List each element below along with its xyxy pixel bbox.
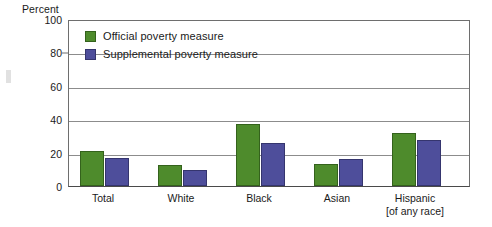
y-tick-80: 80: [26, 47, 62, 59]
bar-asian-official: [314, 164, 338, 186]
legend-label-official: Official poverty measure: [103, 30, 224, 42]
bar-hispanic-official: [392, 133, 416, 186]
gridline-40: [69, 121, 469, 122]
bar-total-supplemental: [105, 158, 129, 186]
y-tick-20: 20: [26, 148, 62, 160]
legend-swatch-supplemental-icon: [85, 49, 96, 60]
y-tick-40: 40: [26, 114, 62, 126]
chart-legend: Official poverty measure Supplemental po…: [85, 28, 258, 64]
bar-white-official: [158, 165, 182, 186]
bar-total-official: [80, 151, 104, 186]
bar-asian-supplemental: [339, 159, 363, 186]
bar-black-official: [236, 124, 260, 186]
y-tick-100: 100: [26, 14, 62, 26]
x-label-asian: Asian: [324, 192, 350, 205]
legend-item-official: Official poverty measure: [85, 28, 258, 44]
y-tick-60: 60: [26, 81, 62, 93]
plot-area: Official poverty measure Supplemental po…: [68, 20, 470, 187]
x-label-black: Black: [246, 192, 272, 205]
x-label-white: White: [168, 192, 195, 205]
legend-swatch-official-icon: [85, 31, 96, 42]
bar-black-supplemental: [261, 143, 285, 186]
poverty-measure-bar-chart: Percent 100 80 60 40 20 0 Offici: [0, 0, 492, 227]
legend-item-supplemental: Supplemental poverty measure: [85, 46, 258, 62]
x-label-hispanic-sub: [of any race]: [386, 205, 444, 218]
scan-edge-artifact: [6, 70, 11, 83]
x-label-hispanic-main: Hispanic: [395, 192, 435, 204]
x-label-total: Total: [92, 192, 114, 205]
gridline-60: [69, 88, 469, 89]
x-label-hispanic: Hispanic [of any race]: [386, 192, 444, 218]
bar-white-supplemental: [183, 170, 207, 186]
y-tick-0: 0: [26, 181, 62, 193]
bar-hispanic-supplemental: [417, 140, 441, 186]
legend-label-supplemental: Supplemental poverty measure: [103, 48, 258, 60]
